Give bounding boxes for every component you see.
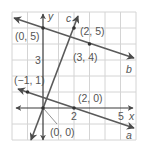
point-0-0 — [41, 106, 45, 110]
y-tick-3: 3 — [35, 54, 41, 66]
point-label-0-0: (0, 0) — [50, 126, 75, 138]
point-neg1-1 — [26, 90, 30, 94]
point-2-5 — [72, 26, 76, 30]
x-axis-label: x — [128, 110, 135, 122]
point-label-3-4: (3, 4) — [73, 51, 98, 63]
point-0-5 — [41, 26, 45, 30]
point-3-4 — [88, 42, 92, 46]
line-c-label: c — [66, 12, 72, 24]
coordinate-graph: y x 3 2 5 c b a (0, 5) (2, 5) (3, 4) (−1… — [0, 0, 143, 154]
origin-leader — [44, 109, 57, 124]
point-label-2-5: (2, 5) — [80, 25, 105, 37]
line-b-label: b — [126, 63, 132, 75]
point-label-neg1-1: (−1, 1) — [14, 74, 45, 86]
line-a-label: a — [126, 129, 132, 141]
x-tick-5: 5 — [118, 110, 124, 122]
x-tick-2: 2 — [71, 110, 77, 122]
point-label-0-5: (0, 5) — [15, 30, 40, 42]
y-axis-label: y — [47, 10, 54, 22]
point-label-2-0: (2, 0) — [78, 92, 103, 104]
